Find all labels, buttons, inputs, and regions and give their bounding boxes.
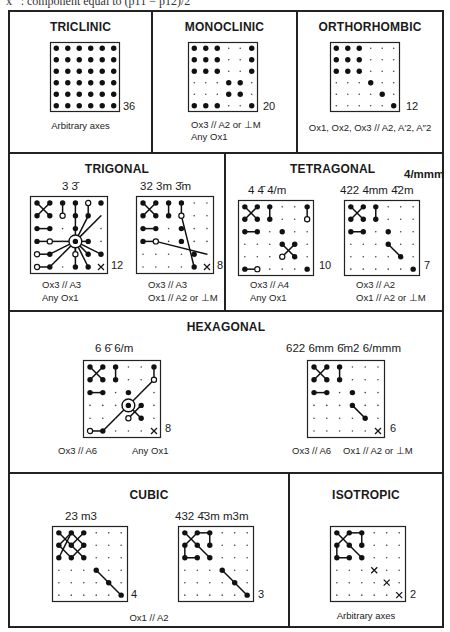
zero-element (370, 105, 372, 107)
nonzero-element (361, 229, 366, 234)
nonzero-element (94, 568, 99, 573)
axes-note: Ox3 // A3 (148, 279, 187, 290)
nonzero-element (203, 46, 208, 51)
nonzero-element (359, 555, 364, 560)
zero-element (89, 405, 91, 407)
point-group-symbols: 4 4̄ 4/m (248, 184, 286, 196)
zero-element (71, 569, 73, 571)
nonzero-element (179, 239, 184, 244)
zero-element (244, 256, 246, 258)
zero-element (281, 268, 283, 270)
panel-title: ISOTROPIC (290, 488, 442, 502)
zero-element (349, 594, 351, 596)
nonzero-element (348, 217, 353, 222)
nonzero-element (267, 204, 272, 209)
zero-element (313, 405, 315, 407)
panel-isotropic: ISOTROPIC 2 Arbitrary axes (290, 474, 442, 626)
zero-element (83, 582, 85, 584)
zero-element (181, 266, 183, 268)
zero-element (361, 582, 363, 584)
special-element (98, 264, 104, 270)
opposite-element (34, 252, 39, 257)
nonzero-element (192, 103, 197, 108)
zero-element (120, 582, 122, 584)
nonzero-element (324, 377, 329, 382)
nonzero-element (34, 213, 39, 218)
zero-element (234, 594, 236, 596)
point-group-symbols: 3 3̄ (62, 180, 78, 192)
nonzero-element (54, 92, 59, 97)
nonzero-element (88, 46, 93, 51)
zero-element (206, 202, 208, 204)
element-count: 8 (217, 259, 223, 271)
zero-element (216, 93, 218, 95)
nonzero-element (203, 103, 208, 108)
zero-element (373, 594, 375, 596)
zero-element (387, 268, 389, 270)
zero-element (393, 82, 395, 84)
zero-element (108, 594, 110, 596)
grid-tetragonal-low (238, 200, 314, 276)
nonzero-element (153, 213, 158, 218)
zero-element (294, 219, 296, 221)
nonzero-element (373, 204, 378, 209)
nonzero-element (292, 242, 297, 247)
zero-element (347, 105, 349, 107)
nonzero-element (47, 213, 52, 218)
nonzero-element (54, 103, 59, 108)
nonzero-element (85, 264, 90, 269)
zero-element (181, 253, 183, 255)
zero-element (58, 582, 60, 584)
nonzero-element (207, 543, 212, 548)
panel-monoclinic: MONOCLINIC 20 Ox3 // A2 or ⊥M Any Ox1 (153, 12, 298, 154)
nonzero-element (73, 200, 78, 205)
nonzero-element (386, 229, 391, 234)
nonzero-element (65, 92, 70, 97)
zero-element (361, 594, 363, 596)
nonzero-element (311, 364, 316, 369)
zero-element (364, 392, 366, 394)
zero-element (140, 392, 142, 394)
nonzero-element (77, 69, 82, 74)
zero-element (95, 532, 97, 534)
zero-element (216, 82, 218, 84)
zero-element (364, 379, 366, 381)
zero-element (108, 532, 110, 534)
zero-element (239, 105, 241, 107)
zero-element (412, 243, 414, 245)
zero-element (377, 417, 379, 419)
point-group-symbols: 6 6̄ 6/m (95, 342, 133, 354)
nonzero-element (207, 530, 212, 535)
zero-element (347, 82, 349, 84)
nonzero-element (255, 229, 260, 234)
zero-element (221, 532, 223, 534)
zero-element (306, 256, 308, 258)
axes-note: Ox1 // A2 or ⊥M (356, 292, 426, 303)
zero-element (352, 366, 354, 368)
zero-element (168, 228, 170, 230)
nonzero-element (88, 69, 93, 74)
zero-element (361, 569, 363, 571)
nonzero-element (368, 80, 373, 85)
nonzero-element (232, 580, 237, 585)
zero-element (205, 82, 207, 84)
opposite-element (60, 213, 65, 218)
nonzero-element (126, 390, 131, 395)
zero-element (400, 231, 402, 233)
nonzero-element (410, 266, 415, 271)
opposite-element (87, 428, 92, 433)
nonzero-element (182, 530, 187, 535)
zero-element (294, 206, 296, 208)
nonzero-element (111, 69, 116, 74)
zero-element (251, 82, 253, 84)
zero-element (306, 231, 308, 233)
zero-element (142, 266, 144, 268)
zero-element (373, 545, 375, 547)
nonzero-element (357, 69, 362, 74)
zero-element (370, 70, 372, 72)
nonzero-element (111, 57, 116, 62)
zero-element (62, 266, 64, 268)
nonzero-element (347, 530, 352, 535)
zero-element (184, 569, 186, 571)
grid-cubic-high (178, 526, 254, 602)
